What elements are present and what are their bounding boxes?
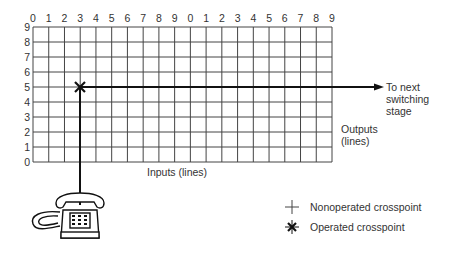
- row-tick-label: 0: [24, 156, 30, 168]
- row-tick-label: 4: [24, 96, 30, 108]
- row-tick-label: 9: [24, 21, 30, 33]
- arrow-label-line3: stage: [386, 105, 412, 117]
- switching-diagram: 01234567890123456789 9876543210 To next …: [0, 0, 456, 258]
- outputs-label-line2: (lines): [341, 135, 370, 147]
- column-tick-label: 5: [266, 12, 272, 24]
- column-tick-label: 4: [93, 12, 99, 24]
- column-tick-label: 3: [235, 12, 241, 24]
- column-tick-label: 9: [329, 12, 335, 24]
- column-tick-label: 1: [46, 12, 52, 24]
- column-tick-label: 6: [282, 12, 288, 24]
- row-tick-labels: 9876543210: [24, 21, 30, 168]
- arrow-label-line2: switching: [386, 93, 429, 105]
- column-tick-label: 0: [187, 12, 193, 24]
- column-tick-label: 2: [219, 12, 225, 24]
- column-tick-label: 3: [77, 12, 83, 24]
- row-tick-label: 2: [24, 126, 30, 138]
- legend-operated-icon: [285, 220, 299, 234]
- row-tick-label: 6: [24, 66, 30, 78]
- column-tick-labels: 01234567890123456789: [30, 12, 335, 24]
- row-tick-label: 7: [24, 51, 30, 63]
- inputs-label: Inputs (lines): [147, 166, 207, 178]
- column-tick-label: 7: [140, 12, 146, 24]
- row-tick-label: 8: [24, 36, 30, 48]
- arrow-head-icon: [374, 84, 384, 91]
- column-tick-label: 4: [250, 12, 256, 24]
- column-tick-label: 7: [298, 12, 304, 24]
- column-tick-label: 1: [203, 12, 209, 24]
- row-tick-label: 5: [24, 81, 30, 93]
- column-tick-label: 5: [109, 12, 115, 24]
- row-tick-label: 1: [24, 141, 30, 153]
- column-tick-label: 8: [313, 12, 319, 24]
- row-tick-label: 3: [24, 111, 30, 123]
- legend-nonoperated-label: Nonoperated crosspoint: [310, 201, 422, 213]
- telephone-icon: [32, 193, 104, 238]
- column-tick-label: 0: [30, 12, 36, 24]
- legend-nonoperated-icon: [285, 200, 299, 214]
- outputs-label-line1: Outputs: [341, 123, 378, 135]
- column-tick-label: 2: [62, 12, 68, 24]
- crosspoint-grid: [33, 27, 332, 162]
- column-tick-label: 9: [172, 12, 178, 24]
- column-tick-label: 8: [156, 12, 162, 24]
- arrow-label-line1: To next: [386, 81, 420, 93]
- legend-operated-label: Operated crosspoint: [310, 221, 405, 233]
- column-tick-label: 6: [124, 12, 130, 24]
